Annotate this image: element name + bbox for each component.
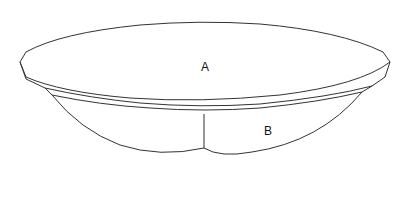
label-b: B: [264, 124, 272, 138]
rim-underside: [45, 86, 372, 110]
bowl-body-left: [52, 95, 204, 152]
label-a: A: [201, 60, 209, 74]
bowl-diagram: A B: [0, 0, 406, 222]
